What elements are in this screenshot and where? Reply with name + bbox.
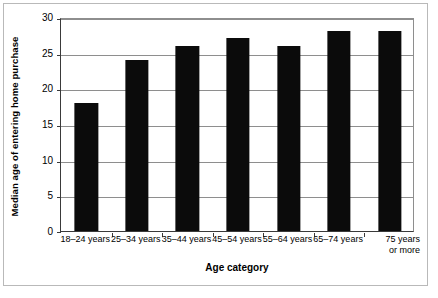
bar-series: [61, 19, 413, 231]
bar[interactable]: [328, 31, 351, 231]
bar[interactable]: [277, 46, 300, 231]
bar[interactable]: [75, 103, 98, 231]
bar-slot: [213, 19, 264, 231]
y-axis-tick-label: 15: [25, 120, 53, 130]
bar[interactable]: [125, 60, 148, 231]
x-axis-tick-labels: 18–24 years25–34 years35–44 years45–54 y…: [60, 234, 414, 264]
bar[interactable]: [226, 38, 249, 231]
y-axis-tick-label: 25: [25, 49, 53, 59]
bar-slot: [314, 19, 365, 231]
y-axis-tick-label: 10: [25, 156, 53, 166]
bar-slot: [112, 19, 163, 231]
plot-area: [60, 18, 414, 232]
y-axis-tick-labels: 051015202530: [28, 14, 56, 236]
y-axis-tick-label: 20: [25, 84, 53, 94]
bar-slot: [364, 19, 415, 231]
x-axis-tick-label: 75 years or more: [357, 234, 422, 256]
y-axis-tick-label: 0: [25, 227, 53, 237]
chart-figure: Median age of entering home purchase 051…: [3, 3, 428, 286]
bar-slot: [162, 19, 213, 231]
y-axis-tick-mark: [57, 232, 61, 233]
bar-slot: [263, 19, 314, 231]
bar[interactable]: [378, 31, 401, 231]
bar[interactable]: [176, 46, 199, 231]
bar-slot: [61, 19, 112, 231]
y-axis-tick-label: 5: [25, 191, 53, 201]
y-axis-title-text: Median age of entering home purchase: [10, 36, 21, 216]
x-axis-title: Age category: [60, 262, 414, 273]
y-axis-tick-label: 30: [25, 13, 53, 23]
y-axis-title: Median age of entering home purchase: [4, 12, 26, 240]
